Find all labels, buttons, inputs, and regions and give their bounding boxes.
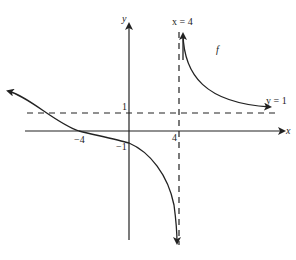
curve-left-branch — [79, 131, 177, 243]
vertical-asymptote-label: x = 4 — [172, 16, 193, 27]
tick-label-x-intercept: −4 — [74, 134, 85, 145]
x-axis-label: x — [285, 125, 291, 136]
function-label: f — [216, 44, 220, 55]
tick-label-y-one: 1 — [122, 101, 127, 112]
tick-label-x-four: 4 — [172, 132, 177, 143]
graph: y x x = 4 y = 1 f 1 4 −4 −1 — [0, 0, 296, 260]
horizontal-asymptote-label: y = 1 — [266, 95, 287, 106]
curve-right-branch — [183, 34, 270, 107]
tick-label-y-intercept: −1 — [116, 141, 127, 152]
curve-left-tail — [8, 91, 79, 131]
y-axis-label: y — [121, 13, 127, 24]
